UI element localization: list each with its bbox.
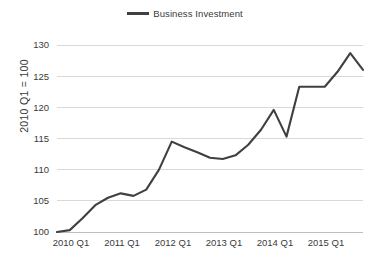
series-line-business-investment [57,53,363,232]
y-axis-tick-labels: 100105110115120125130 [33,39,49,237]
y-tick-label: 110 [34,164,49,175]
x-tick-label: 2013 Q1 [206,237,242,248]
y-tick-label: 130 [33,39,49,50]
x-tick-label: 2011 Q1 [104,237,140,248]
y-tick-label: 120 [33,102,49,113]
business-investment-line-chart: Business Investment 2010 Q1 = 100 100105… [0,0,370,265]
y-tick-label: 100 [33,226,49,237]
y-tick-label: 115 [34,133,49,144]
x-tick-label: 2012 Q1 [155,237,191,248]
x-axis-tick-labels: 2010 Q12011 Q12012 Q12013 Q12014 Q12015 … [53,237,344,248]
gridlines [57,45,363,232]
y-tick-label: 105 [33,195,49,206]
plot-area: 100105110115120125130 2010 Q12011 Q12012… [0,0,370,265]
x-tick-label: 2014 Q1 [257,237,293,248]
x-tick-label: 2015 Q1 [308,237,344,248]
x-tick-label: 2010 Q1 [53,237,89,248]
y-tick-label: 125 [33,71,49,82]
